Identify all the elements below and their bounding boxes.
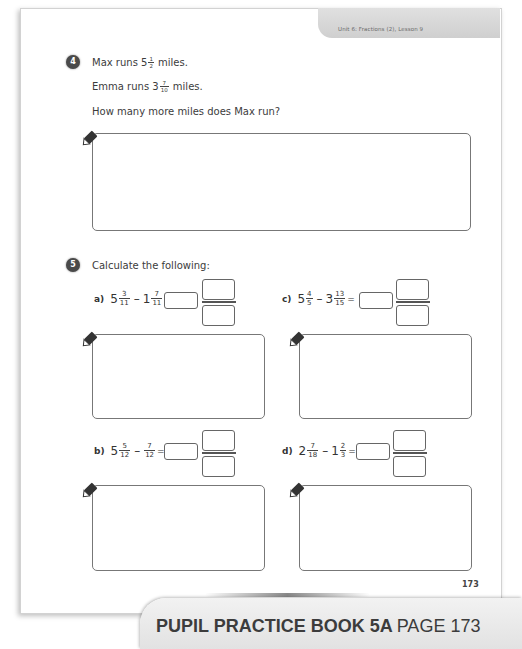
answer-b-whole[interactable] — [164, 443, 198, 460]
answer-d-denominator[interactable] — [393, 456, 426, 477]
q4-line-max: Max runs 512 miles. — [92, 56, 188, 69]
fraction-bar — [202, 452, 236, 454]
q4-question-text: How many more miles does Max run? — [92, 106, 280, 117]
answer-a-denominator[interactable] — [202, 305, 235, 326]
fraction-bar — [396, 301, 430, 303]
answer-a-whole[interactable] — [164, 292, 198, 309]
pencil-icon — [80, 130, 98, 148]
fraction: 12 — [148, 56, 154, 69]
answer-b-numerator[interactable] — [202, 430, 235, 451]
q4-emma-text: Emma runs 3 — [92, 81, 159, 92]
expression-d: d) 2718 – 123 = — [282, 442, 356, 459]
answer-d-numerator[interactable] — [393, 430, 426, 451]
d-working-box[interactable] — [299, 485, 472, 571]
answer-c-numerator[interactable] — [396, 279, 429, 300]
answer-d-whole[interactable] — [356, 443, 390, 460]
fraction-bar — [393, 452, 427, 454]
answer-a-numerator[interactable] — [202, 279, 235, 300]
expression-b: b) 5512 – 712 = — [94, 442, 165, 459]
pencil-icon — [287, 482, 305, 500]
answer-b-denominator[interactable] — [202, 456, 235, 477]
a-working-box[interactable] — [92, 334, 265, 419]
banner-title: PUPIL PRACTICE BOOK 5APAGE 173 — [156, 616, 480, 637]
b-working-box[interactable] — [92, 485, 265, 571]
question-number-5: 5 — [66, 258, 80, 272]
c-working-box[interactable] — [299, 334, 472, 419]
q4-line-emma: Emma runs 3710 miles. — [92, 80, 203, 93]
header-tab — [318, 8, 500, 38]
pencil-icon — [80, 482, 98, 500]
q5-prompt: Calculate the following: — [92, 260, 210, 271]
page-number: 173 — [462, 580, 479, 589]
expression-c: c) 545 – 31315 = — [282, 290, 355, 307]
q4-working-box[interactable] — [92, 133, 471, 231]
fraction-bar — [202, 301, 236, 303]
expression-a: a) 5311 – 1711 = — [94, 290, 172, 307]
banner-shadow — [205, 593, 370, 597]
pencil-icon — [80, 331, 98, 349]
answer-c-whole[interactable] — [359, 292, 393, 309]
question-number-4: 4 — [66, 55, 80, 69]
fraction: 710 — [160, 80, 169, 93]
pencil-icon — [287, 331, 305, 349]
answer-c-denominator[interactable] — [396, 305, 429, 326]
q4-max-text: Max runs 5 — [92, 57, 147, 68]
unit-lesson-label: Unit 6: Fractions (2), Lesson 9 — [338, 26, 423, 32]
